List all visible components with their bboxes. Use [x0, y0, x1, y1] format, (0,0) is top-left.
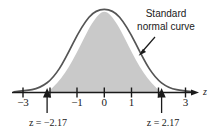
- upper-bound-label: z = 2.17: [147, 117, 180, 128]
- callout-text-line-2: normal curve: [137, 21, 195, 32]
- tick-label-plus-3: 3: [183, 96, 189, 108]
- axis-arrowhead-icon: [191, 89, 199, 95]
- tick-label-plus-1: 1: [129, 96, 135, 108]
- axis-label-z: z: [202, 86, 207, 97]
- lower-bound-label: z = −2.17: [29, 117, 67, 128]
- callout-arrow-icon: [139, 37, 155, 56]
- tick-label-zero: 0: [102, 96, 108, 108]
- tick-label-minus-3: −3: [17, 96, 29, 108]
- figure-canvas: −3 −1 0 1 3 z z = −2.17 z = 2.17 Standar…: [0, 0, 214, 132]
- standard-normal-curve-figure: −3 −1 0 1 3 z z = −2.17 z = 2.17 Standar…: [0, 0, 214, 132]
- callout-text-line-1: Standard: [146, 8, 187, 19]
- tick-label-minus-1: −1: [71, 96, 83, 108]
